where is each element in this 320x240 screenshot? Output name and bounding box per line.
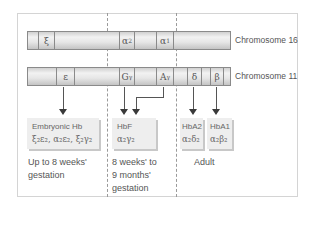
chromosome-16-bar: ξ α2 α1: [27, 31, 231, 50]
gene-symbol: δ: [192, 72, 197, 82]
arrow-beta-line: [216, 87, 217, 110]
arrow-epsilon-head-icon: [59, 109, 67, 115]
gene-epsilon: ε: [56, 67, 75, 86]
arrow-a-gamma-head-icon: [132, 109, 140, 115]
arrow-epsilon-line: [63, 87, 64, 110]
gene-subscript: γ: [129, 73, 133, 80]
embryonic-hb-box: Embryonic Hb ξ₂ε₂, α₂ε₂, ξ₂γ₂: [27, 118, 99, 149]
arrow-beta-head-icon: [212, 109, 220, 115]
stage-line: gestation: [112, 182, 157, 195]
gene-subscript: 1: [166, 37, 170, 44]
gene-beta: β: [210, 67, 224, 86]
arrow-g-gamma-line: [124, 87, 125, 110]
gene-symbol: ξ: [44, 36, 49, 46]
stage-line: 8 weeks' to: [112, 156, 157, 169]
chromosome-11-bar: ε Gγ Aγ δ β: [27, 67, 231, 86]
hb-name: HbA1: [210, 121, 232, 133]
hb-formula: α₂δ₂: [182, 133, 203, 145]
chromosome-16-label: Chromosome 16: [235, 35, 298, 45]
hb-formula: α₂β₂: [210, 133, 232, 145]
gene-g-gamma: Gγ: [119, 67, 135, 86]
stage-line: Up to 8 weeks': [28, 156, 87, 169]
stage-line: 9 months': [112, 169, 157, 182]
gene-subscript: γ: [166, 73, 170, 80]
hb-name: Embryonic Hb: [32, 121, 99, 133]
gene-xi: ξ: [38, 31, 55, 50]
gene-subscript: 2: [128, 37, 132, 44]
stage-line: gestation: [28, 169, 87, 182]
hbf-box: HbF α₂γ₂: [112, 118, 156, 149]
gene-symbol: G: [122, 72, 129, 82]
chromosome-11-label: Chromosome 11: [235, 71, 297, 81]
hb-name: HbF: [117, 121, 156, 133]
stage-embryonic: Up to 8 weeks' gestation: [28, 156, 87, 182]
arrow-delta-head-icon: [189, 109, 197, 115]
arrow-a-gamma-line-horizontal: [136, 97, 164, 98]
gene-alpha1: α1: [156, 31, 174, 50]
gene-symbol: ε: [63, 72, 68, 82]
stage-adult: Adult: [194, 156, 215, 169]
arrow-delta-line: [193, 87, 194, 110]
hb-formula: ξ₂ε₂, α₂ε₂, ξ₂γ₂: [32, 133, 99, 145]
stage-fetal: 8 weeks' to 9 months' gestation: [112, 156, 157, 195]
stage-line: Adult: [194, 156, 215, 169]
hba2-box: HbA2 α₂δ₂: [180, 118, 203, 149]
hb-formula: α₂γ₂: [117, 133, 156, 145]
hb-name: HbA2: [182, 121, 203, 133]
hba1-box: HbA1 α₂β₂: [207, 118, 232, 149]
gene-symbol: β: [214, 72, 219, 82]
gene-a-gamma: Aγ: [156, 67, 174, 86]
gene-alpha2: α2: [119, 31, 135, 50]
gene-delta: δ: [187, 67, 202, 86]
arrow-g-gamma-head-icon: [120, 109, 128, 115]
